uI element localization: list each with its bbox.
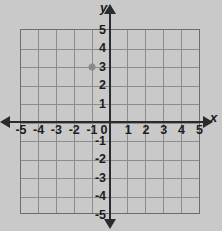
x-tick-label: 1: [125, 124, 132, 137]
x-tick-label: -4: [33, 124, 44, 137]
y-tick-label: -1: [90, 134, 106, 147]
x-tick-label: -2: [69, 124, 80, 137]
x-tick-label: 2: [143, 124, 150, 137]
y-tick-label: -2: [90, 153, 106, 166]
x-tick-label: 4: [178, 124, 185, 137]
y-tick-label: 3: [96, 60, 106, 73]
y-tick-label: -3: [90, 171, 106, 184]
y-tick-label: 2: [96, 79, 106, 92]
y-tick-label: 4: [96, 42, 106, 55]
x-tick-label: 5: [196, 124, 203, 137]
y-tick-label: 5: [96, 23, 106, 36]
x-tick-label: -3: [51, 124, 62, 137]
x-axis-arrow-left-icon: [0, 116, 10, 128]
y-tick-label: -4: [90, 190, 106, 203]
y-axis-line: [109, 12, 111, 227]
x-tick-label: 3: [160, 124, 167, 137]
coordinate-plane: x y -5 -4 -3 -2 -1 0 1 2 3 4 5 5 4 3 2 1…: [0, 0, 222, 231]
y-tick-label: -5: [90, 208, 106, 221]
x-axis-label: x: [210, 110, 217, 125]
y-tick-label: 1: [96, 97, 106, 110]
x-tick-label: -5: [15, 124, 26, 137]
plotted-point: [89, 63, 96, 70]
y-axis-label: y: [100, 0, 107, 15]
